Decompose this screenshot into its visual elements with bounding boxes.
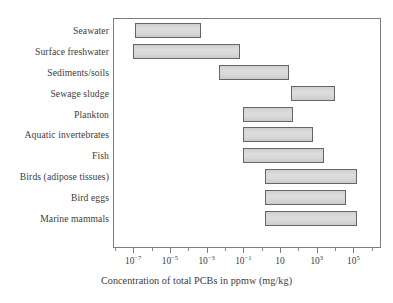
x-tick-major xyxy=(133,248,134,253)
category-label-birds-adipose-tissues: Birds (adipose tissues) xyxy=(0,171,109,182)
x-tick-minor xyxy=(335,248,336,251)
category-label-seawater: Seawater xyxy=(0,25,109,36)
category-axis-labels: SeawaterSurface freshwaterSediments/soil… xyxy=(0,18,109,248)
x-tick-minor xyxy=(225,248,226,251)
category-label-plankton: Plankton xyxy=(0,109,109,120)
category-label-bird-eggs: Bird eggs xyxy=(0,192,109,203)
x-tick-minor xyxy=(188,248,189,251)
range-bar-birds-adipose-tissues xyxy=(265,169,357,184)
range-bar-sewage-sludge xyxy=(291,86,335,101)
x-tick-label-4: 10 xyxy=(275,255,284,267)
x-tick-major xyxy=(170,248,171,253)
range-bar-marine-mammals xyxy=(265,211,357,226)
category-label-surface-freshwater: Surface freshwater xyxy=(0,46,109,57)
x-tick-minor xyxy=(372,248,373,251)
x-tick-major xyxy=(280,248,281,253)
x-tick-label-5: 103 xyxy=(310,255,323,267)
range-bar-bird-eggs xyxy=(265,190,346,205)
x-tick-major xyxy=(243,248,244,253)
x-tick-major xyxy=(317,248,318,253)
range-bar-aquatic-invertebrates xyxy=(243,127,313,142)
x-tick-label-0: 10−7 xyxy=(125,255,141,267)
category-label-sediments-soils: Sediments/soils xyxy=(0,67,109,78)
x-tick-minor xyxy=(262,248,263,251)
x-tick-minor xyxy=(298,248,299,251)
x-tick-label-2: 10−3 xyxy=(198,255,214,267)
x-axis-tick-labels: 10−710−510−310−110103105 xyxy=(113,255,381,269)
range-bar-plankton xyxy=(243,107,293,122)
range-bar-sediments-soils xyxy=(219,65,289,80)
pcb-concentration-figure: SeawaterSurface freshwaterSediments/soil… xyxy=(0,0,393,303)
x-tick-minor xyxy=(152,248,153,251)
x-tick-major xyxy=(353,248,354,253)
x-axis-title: Concentration of total PCBs in ppmw (mg/… xyxy=(0,274,393,287)
x-tick-major xyxy=(207,248,208,253)
x-tick-minor xyxy=(115,248,116,251)
category-label-aquatic-invertebrates: Aquatic invertebrates xyxy=(0,129,109,140)
x-tick-label-1: 10−5 xyxy=(162,255,178,267)
range-bar-seawater xyxy=(135,23,201,38)
category-label-fish: Fish xyxy=(0,150,109,161)
range-bars-group xyxy=(113,18,381,248)
range-bar-surface-freshwater xyxy=(133,44,239,59)
x-tick-label-3: 10−1 xyxy=(235,255,251,267)
category-label-sewage-sludge: Sewage sludge xyxy=(0,88,109,99)
x-tick-label-6: 105 xyxy=(347,255,360,267)
category-label-marine-mammals: Marine mammals xyxy=(0,213,109,224)
range-bar-fish xyxy=(243,148,324,163)
